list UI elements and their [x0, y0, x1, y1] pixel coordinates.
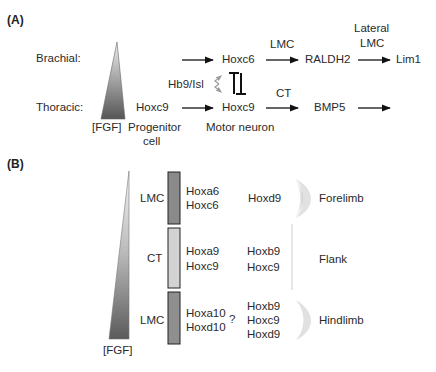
- regulator-arrow-up: [215, 76, 221, 84]
- fgf-gradient-triangle-b: [109, 171, 129, 339]
- progenitor-caption-cell: cell: [143, 135, 160, 148]
- segment-bar-ct: [168, 228, 180, 288]
- edge-label-lmc: LMC: [270, 38, 294, 51]
- motor-neuron-hoxc9: Hoxc9: [222, 101, 255, 114]
- segment-column-ct: CT: [147, 252, 162, 265]
- target-hindlimb: Hindlimb: [319, 314, 364, 327]
- fgf-label-a: [FGF]: [92, 121, 121, 134]
- panel-a-label: (A): [7, 13, 24, 27]
- regulator-arrow-down: [215, 84, 221, 92]
- node-lim1: Lim1: [396, 53, 421, 66]
- segment-2-gene-2: Hoxc9: [186, 260, 219, 273]
- progenitor-caption: Progenitor: [128, 121, 181, 134]
- node-raldh2: RALDH2: [305, 53, 350, 66]
- hindlimb-lobe-shade: [296, 300, 311, 340]
- fgf-label-b: [FGF]: [103, 344, 132, 357]
- segment-bar-lmc-brachial: [168, 172, 180, 224]
- segment-3-gene-1: Hoxa10: [186, 307, 226, 320]
- mutual-repression-icon: [229, 73, 246, 94]
- target-forelimb: Forelimb: [319, 192, 364, 205]
- segment-column-lmc-3: LMC: [140, 314, 164, 327]
- segment-3-outer-gene-3: Hoxd9: [247, 328, 280, 341]
- motor-neuron-hoxc6: Hoxc6: [222, 53, 255, 66]
- segment-1-gene-2: Hoxc6: [186, 199, 219, 212]
- segment-1-outer-gene-1: Hoxd9: [248, 192, 281, 205]
- segment-3-gene-2: Hoxd10: [186, 321, 226, 334]
- edge-label-lateral-lmc: LMC: [360, 37, 384, 50]
- edge-label-ct: CT: [276, 87, 291, 100]
- segment-2-outer-gene-2: Hoxc9: [247, 261, 280, 274]
- edge-label-lateral: Lateral: [354, 22, 389, 35]
- segment-bar-lmc-lumbar: [168, 292, 180, 344]
- row-label-thoracic: Thoracic:: [36, 101, 83, 114]
- uncertain-mark: ?: [229, 313, 235, 326]
- fgf-gradient-triangle-a: [101, 42, 125, 119]
- motor-neuron-caption: Motor neuron: [206, 121, 274, 134]
- segment-3-outer-gene-1: Hoxb9: [247, 300, 280, 313]
- segment-column-lmc-1: LMC: [140, 192, 164, 205]
- segment-1-gene-1: Hoxa6: [186, 185, 219, 198]
- panel-b-label: (B): [7, 157, 24, 171]
- segment-2-outer-gene-1: Hoxb9: [247, 245, 280, 258]
- regulator-hb9-isl: Hb9/Isl: [168, 78, 204, 91]
- target-flank: Flank: [319, 253, 347, 266]
- segment-2-gene-1: Hoxa9: [186, 245, 219, 258]
- segment-3-outer-gene-2: Hoxc9: [247, 314, 280, 327]
- node-bmp5: BMP5: [314, 101, 345, 114]
- progenitor-gene: Hoxc9: [136, 101, 169, 114]
- row-label-brachial: Brachial:: [36, 52, 81, 65]
